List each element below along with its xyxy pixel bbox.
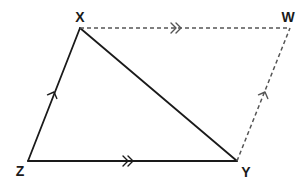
edge-xy	[80, 28, 237, 161]
edge-zx	[28, 28, 80, 161]
vertex-label-x: X	[75, 9, 85, 25]
edge-yw	[237, 28, 290, 161]
vertex-label-w: W	[281, 9, 295, 25]
vertex-label-y: Y	[241, 164, 251, 180]
vertex-label-z: Z	[16, 163, 25, 179]
parallelogram-diagram: X W Z Y	[0, 0, 307, 185]
